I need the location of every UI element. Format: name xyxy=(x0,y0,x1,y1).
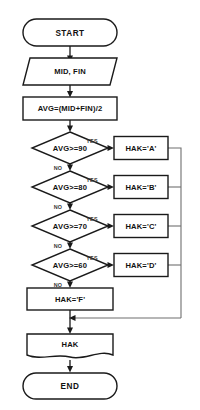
node-decision-80-label: AVG>=80 xyxy=(53,183,87,192)
node-grade-a: HAK='A' xyxy=(114,137,168,160)
node-decision-70-label: AVG>=70 xyxy=(53,222,87,231)
edge-label-no-70: NO xyxy=(54,243,63,249)
node-process-avg-label: AVG=(MID+FIN)/2 xyxy=(38,104,103,113)
flowchart-diagram: START MID, FIN AVG=(MID+FIN)/2 AVG>=90 A… xyxy=(0,0,200,410)
connector-output-to-end xyxy=(67,360,73,373)
node-grade-c-label: HAK='C' xyxy=(125,222,156,231)
node-decision-60-label: AVG>=60 xyxy=(53,261,87,270)
connector-process-to-decision-90 xyxy=(67,120,73,132)
edge-label-yes-90: YES xyxy=(86,138,98,144)
node-grade-d: HAK='D' xyxy=(114,254,168,277)
node-grade-f: HAK='F' xyxy=(27,288,113,310)
node-grade-c: HAK='C' xyxy=(114,215,168,238)
node-process-avg: AVG=(MID+FIN)/2 xyxy=(23,97,117,120)
connector-no-90 xyxy=(67,164,73,171)
connector-no-80 xyxy=(67,203,73,210)
node-start: START xyxy=(23,19,117,46)
node-decision-70: AVG>=70 xyxy=(32,210,108,242)
connector-input-to-process xyxy=(67,85,73,98)
node-end-label: END xyxy=(61,382,80,391)
edge-label-yes-70: YES xyxy=(86,216,98,222)
node-output-label: HAK xyxy=(62,340,79,349)
node-start-label: START xyxy=(55,29,84,38)
connector-no-70 xyxy=(67,242,73,249)
edge-label-yes-60: YES xyxy=(86,255,98,261)
edge-label-no-80: NO xyxy=(54,204,63,210)
connector-no-60 xyxy=(67,281,73,288)
node-grade-b: HAK='B' xyxy=(114,176,168,199)
node-end: END xyxy=(23,373,117,399)
node-decision-80: AVG>=80 xyxy=(32,171,108,203)
edge-label-no-60: NO xyxy=(54,282,63,288)
edge-label-no-90: NO xyxy=(54,165,63,171)
node-input: MID, FIN xyxy=(23,58,117,85)
node-decision-60: AVG>=60 xyxy=(32,249,108,281)
node-grade-d-label: HAK='D' xyxy=(125,261,156,270)
node-grade-b-label: HAK='B' xyxy=(125,183,156,192)
connector-gradef-to-output xyxy=(67,310,73,334)
node-decision-90: AVG>=90 xyxy=(32,132,108,164)
node-grade-f-label: HAK='F' xyxy=(55,295,85,304)
node-decision-90-label: AVG>=90 xyxy=(53,144,87,153)
edge-label-yes-80: YES xyxy=(86,177,98,183)
node-grade-a-label: HAK='A' xyxy=(125,144,156,153)
node-input-label: MID, FIN xyxy=(54,67,86,76)
node-output: HAK xyxy=(27,334,113,358)
flowchart-canvas: START MID, FIN AVG=(MID+FIN)/2 AVG>=90 A… xyxy=(0,0,200,410)
